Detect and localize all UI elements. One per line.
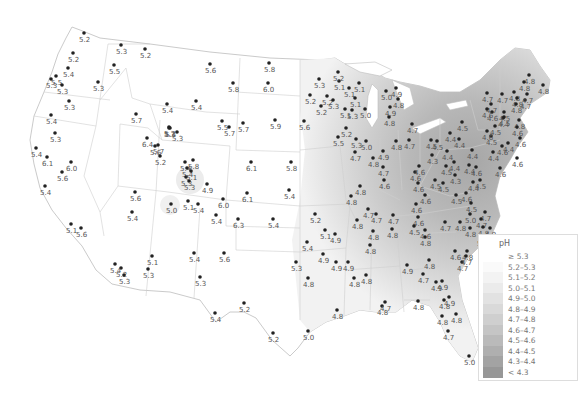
station-dot [454, 312, 458, 316]
station-dot [150, 254, 154, 258]
station-ph-label: 5.3 [291, 265, 302, 273]
station-dot [133, 190, 137, 194]
station-ph-label: 4.8 [355, 189, 366, 197]
station-ph-label: 4.8 [424, 263, 435, 271]
station-ph-label: 5.8 [286, 165, 297, 173]
legend-swatch [483, 272, 503, 283]
station-ph-label: 4.9 [402, 268, 413, 276]
station-ph-label: 4.6 [482, 112, 494, 120]
station-dot [427, 258, 431, 262]
station-dot [196, 202, 200, 206]
station-dot [306, 329, 310, 333]
station-dot [319, 104, 323, 108]
station-dot [186, 199, 190, 203]
station-dot [192, 251, 196, 255]
station-ph-label: 5.4 [40, 189, 52, 197]
station-ph-label: 5.3 [93, 85, 104, 93]
station-dot [43, 184, 47, 188]
station-dot [54, 74, 58, 78]
legend-item: 4.3–4.4 [483, 356, 573, 367]
station-ph-label: 4.7 [522, 97, 533, 105]
station-dot [306, 276, 310, 280]
station-dot [289, 160, 293, 164]
station-ph-label: 4.9 [330, 237, 341, 245]
station-dot [344, 126, 348, 130]
station-ph-label: 4.7 [404, 143, 415, 151]
station-ph-label: 5.5 [109, 68, 120, 76]
station-dot [407, 138, 411, 142]
legend-title: pH [499, 239, 510, 248]
station-ph-label: 4.6 [413, 186, 425, 194]
legend-swatch [483, 293, 503, 304]
station-ph-label: 5.1 [147, 259, 158, 267]
station-dot [474, 165, 478, 169]
station-ph-label: 4.8 [451, 317, 462, 325]
legend-label: ≥ 5.3 [508, 251, 529, 262]
station-ph-label: 4.7 [461, 259, 472, 267]
station-ph-label: 5.2 [239, 306, 250, 314]
station-dot [423, 193, 427, 197]
station-ph-label: 4.6 [512, 161, 524, 169]
station-dot [515, 96, 519, 100]
station-ph-label: 4.3 [450, 178, 461, 186]
station-ph-label: 4.7 [371, 217, 382, 225]
station-dot [489, 102, 493, 106]
station-dot [221, 197, 225, 201]
station-ph-label: 4.3 [427, 158, 438, 166]
station-dot [446, 329, 450, 333]
station-ph-label: 4.8 [365, 248, 376, 256]
station-ph-label: 4.6 [414, 169, 426, 177]
station-ph-label: 5.8 [228, 86, 239, 94]
station-dot [488, 226, 492, 230]
station-ph-label: 4.8 [420, 240, 431, 248]
station-ph-label: 4.8 [511, 107, 522, 115]
legend-swatch [483, 304, 503, 315]
station-dot [336, 70, 340, 74]
station-ph-label: 5.4 [284, 193, 296, 201]
legend-swatch [483, 251, 503, 262]
station-ph-label: 4.5 [409, 229, 420, 237]
station-dot [145, 136, 149, 140]
station-dot [416, 299, 420, 303]
legend-label: 4.6–4.7 [508, 325, 536, 336]
station-dot [308, 93, 312, 97]
station-dot [390, 227, 394, 231]
station-dot [506, 141, 510, 145]
station-ph-label: 5.3 [195, 280, 206, 288]
station-ph-label: 4.7 [443, 334, 454, 342]
station-dot [454, 193, 458, 197]
station-dot [67, 99, 71, 103]
station-ph-label: 5.3 [347, 113, 358, 121]
legend-item: 4.7–4.8 [483, 314, 573, 325]
legend-swatch [483, 262, 503, 273]
station-ph-label: 5.0 [303, 334, 314, 342]
station-dot [313, 212, 317, 216]
legend-label: 5.2–5.3 [508, 262, 536, 273]
station-dot [175, 130, 179, 134]
station-ph-label: 4.6 [482, 134, 494, 142]
station-ph-label: 4.9 [318, 257, 329, 265]
station-dot [343, 107, 347, 111]
station-dot [241, 121, 245, 125]
station-ph-label: 5.0 [464, 359, 475, 367]
station-ph-label: 4.4 [449, 165, 461, 173]
station-dot [448, 131, 452, 135]
station-dot [71, 51, 75, 55]
station-dot [267, 61, 271, 65]
station-ph-label: 4.8 [361, 278, 372, 286]
legend-label: 4.4–4.5 [508, 346, 536, 357]
station-dot [371, 156, 375, 160]
station-ph-label: 5.4 [268, 222, 280, 230]
station-dot [467, 163, 471, 167]
station-ph-label: 4.7 [388, 218, 399, 226]
station-ph-label: 5.8 [264, 66, 275, 74]
station-dot [416, 181, 420, 185]
legend-label: < 4.3 [508, 367, 529, 378]
station-dot [336, 135, 340, 139]
station-dot [414, 202, 418, 206]
station-dot [518, 136, 522, 140]
legend-swatch [483, 283, 503, 294]
station-dot [169, 202, 173, 206]
station-ph-label: 5.4 [302, 245, 314, 253]
station-ph-label: 4.4 [467, 153, 479, 161]
